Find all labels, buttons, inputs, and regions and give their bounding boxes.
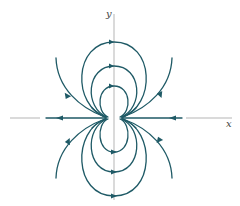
open-trajectory-lower-right [123, 119, 172, 178]
arrow-icon [63, 91, 71, 99]
arrow-icon [56, 116, 63, 121]
arrow-icon [109, 40, 114, 45]
arrow-icon [169, 116, 176, 121]
y-axis-label: y [105, 8, 112, 19]
arrow-icon [157, 91, 165, 99]
arrow-icon [109, 84, 114, 89]
x-axis-label: x [226, 118, 232, 129]
open-trajectory-lower-left [56, 119, 105, 178]
open-trajectory-upper-left [56, 58, 105, 117]
arrow-icon [109, 64, 114, 69]
phase-portrait-diagram: y x [0, 0, 240, 206]
axes [10, 14, 232, 200]
open-trajectory-upper-right [123, 58, 172, 117]
